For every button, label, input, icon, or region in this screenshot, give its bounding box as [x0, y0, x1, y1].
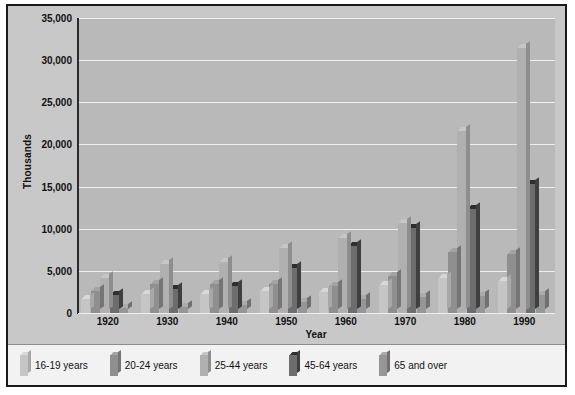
- bar: [81, 299, 90, 313]
- y-tick-label: 0: [66, 308, 72, 319]
- x-tick-label: 1960: [318, 316, 374, 327]
- bar: [438, 278, 447, 313]
- x-tick-label: 1930: [139, 316, 195, 327]
- legend-item[interactable]: 25-44 years: [200, 355, 268, 376]
- chart-frame: Thousands 05,00010,00015,00020,00025,000…: [6, 4, 567, 387]
- bar: [379, 285, 388, 313]
- legend-label: 65 and over: [394, 360, 447, 371]
- x-tick-label: 1940: [199, 316, 255, 327]
- bar-cluster: [141, 18, 189, 313]
- legend-swatch-icon: [379, 355, 387, 376]
- x-tick-label: 1990: [496, 316, 552, 327]
- legend-swatch-icon: [289, 355, 297, 376]
- y-tick-label: 10,000: [41, 223, 72, 234]
- bar-cluster: [81, 18, 129, 313]
- x-tick-label: 1950: [258, 316, 314, 327]
- bar-cluster: [319, 18, 367, 313]
- bar-cluster: [200, 18, 248, 313]
- bar: [179, 307, 188, 313]
- bar: [119, 308, 128, 313]
- bar: [319, 292, 328, 313]
- bar: [498, 281, 507, 313]
- y-tick-label: 15,000: [41, 181, 72, 192]
- bar-cluster: [379, 18, 427, 313]
- y-axis-tick-labels: 05,00010,00015,00020,00025,00030,00035,0…: [26, 6, 76, 344]
- legend-item[interactable]: 65 and over: [379, 355, 447, 376]
- legend-label: 16-19 years: [35, 360, 88, 371]
- legend-swatch-icon: [110, 355, 118, 376]
- chart-legend: 16-19 years20-24 years25-44 years45-64 y…: [8, 344, 565, 385]
- legend-label: 20-24 years: [125, 360, 178, 371]
- legend-item[interactable]: 20-24 years: [110, 355, 178, 376]
- bar-cluster: [498, 18, 546, 313]
- bar-cluster: [260, 18, 308, 313]
- x-tick-label: 1920: [80, 316, 136, 327]
- x-tick-label: 1980: [437, 316, 493, 327]
- legend-label: 45-64 years: [304, 360, 357, 371]
- x-axis-line: [78, 313, 555, 314]
- y-tick-label: 25,000: [41, 97, 72, 108]
- legend-item[interactable]: 16-19 years: [20, 355, 88, 376]
- bar-cluster: [438, 18, 486, 313]
- bar: [141, 294, 150, 313]
- x-axis-title: Year: [78, 329, 554, 340]
- bar: [200, 294, 209, 313]
- legend-swatch-icon: [20, 355, 28, 376]
- y-tick-label: 5,000: [47, 265, 72, 276]
- y-tick-label: 35,000: [41, 13, 72, 24]
- legend-swatch-icon: [200, 355, 208, 376]
- chart-plot-region: Thousands 05,00010,00015,00020,00025,000…: [8, 6, 565, 344]
- plot-canvas: [78, 18, 555, 313]
- bar: [260, 291, 269, 313]
- x-tick-label: 1970: [377, 316, 433, 327]
- legend-label: 25-44 years: [215, 360, 268, 371]
- legend-item[interactable]: 45-64 years: [289, 355, 357, 376]
- y-tick-label: 30,000: [41, 55, 72, 66]
- y-axis-line: [77, 18, 79, 314]
- y-tick-label: 20,000: [41, 139, 72, 150]
